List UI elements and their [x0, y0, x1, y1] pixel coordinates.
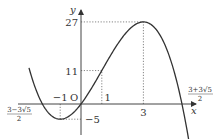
- svg-text:3+3√5: 3+3√5: [188, 86, 212, 94]
- svg-text:2: 2: [17, 115, 21, 123]
- x-tick-label: 3: [140, 107, 146, 118]
- x-tick-label: −1: [53, 92, 68, 103]
- cubic-curve: [29, 22, 189, 139]
- function-graph: y x O 2711−5 −113 3−3√5 2 3+3√5 2: [0, 0, 220, 139]
- y-tick-label: 11: [65, 66, 78, 77]
- origin-label: O: [70, 92, 78, 103]
- y-axis-label: y: [69, 4, 76, 15]
- y-tick-labels: 2711−5: [65, 17, 99, 125]
- y-tick-label: 27: [65, 17, 78, 28]
- svg-text:2: 2: [198, 95, 202, 103]
- right-root-label: 3+3√5 2: [188, 86, 213, 103]
- x-tick-label: 1: [105, 92, 111, 103]
- y-tick-label: −5: [85, 114, 100, 125]
- svg-text:3−3√5: 3−3√5: [7, 106, 31, 114]
- x-axis-label: x: [191, 105, 197, 116]
- left-root-label: 3−3√5 2: [7, 106, 32, 123]
